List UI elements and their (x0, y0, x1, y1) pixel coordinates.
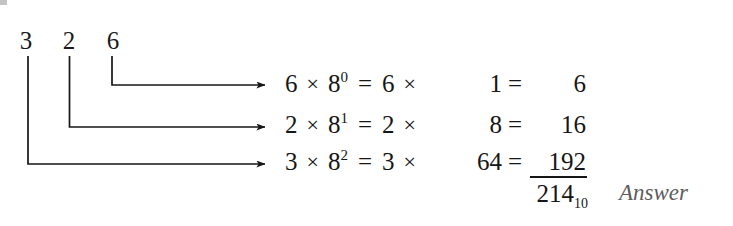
answer-annotation: Answer (619, 180, 688, 206)
row-2-times-1: × (307, 149, 319, 175)
connector-3-path (28, 56, 265, 164)
row-2-exponent: 2 (340, 147, 348, 164)
row-1-equals-1: = (358, 111, 372, 139)
row-2-times-2: × (404, 149, 416, 175)
row-2-equals-1: = (358, 148, 372, 176)
row-1-times-1: × (307, 112, 319, 138)
row-0-times-1: × (307, 71, 319, 97)
row-1-result: 16 (512, 111, 586, 139)
row-1-digit: 2 (285, 111, 298, 139)
row-2-digit: 3 (285, 148, 298, 176)
row-0-power-value: 1 (430, 70, 502, 98)
figure-canvas: 3 2 6 6 × 8 0 = 6 × 1 = 6 2 (0, 0, 733, 226)
total-subscript: 10 (574, 196, 588, 211)
row-0-times-2: × (404, 71, 416, 97)
row-0-exponent: 0 (340, 69, 348, 86)
sum-rule-line (530, 176, 587, 178)
total-value-row: 21410 (500, 180, 588, 208)
row-1-base: 8 (328, 111, 341, 139)
row-2-base: 8 (328, 148, 341, 176)
row-0-factor: 6 (382, 70, 395, 98)
row-0-equals-1: = (358, 70, 372, 98)
total-value: 214 (537, 180, 575, 207)
row-2-factor: 3 (382, 148, 395, 176)
connector-6-path (112, 56, 265, 85)
connector-2-path (70, 56, 266, 127)
row-1-power-value: 8 (430, 111, 502, 139)
row-1-times-2: × (404, 112, 416, 138)
row-0-base: 8 (328, 70, 341, 98)
row-1-exponent: 1 (340, 110, 348, 127)
row-1-factor: 2 (382, 111, 395, 139)
row-2-result: 192 (512, 148, 586, 176)
row-0-result: 6 (512, 70, 586, 98)
row-0-digit: 6 (285, 70, 298, 98)
row-2-power-value: 64 (430, 148, 502, 176)
